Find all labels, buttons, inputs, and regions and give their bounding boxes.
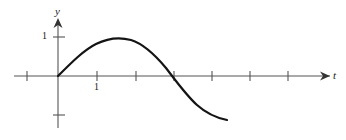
y-tick-label-1: 1 <box>42 31 47 41</box>
plotted-curve <box>58 38 227 120</box>
plot-area <box>0 0 346 140</box>
figure-canvas: y t 1 1 <box>0 0 346 140</box>
y-axis-label: y <box>55 6 60 17</box>
x-tick-label-1: 1 <box>94 82 99 92</box>
t-axis-label: t <box>333 70 336 81</box>
